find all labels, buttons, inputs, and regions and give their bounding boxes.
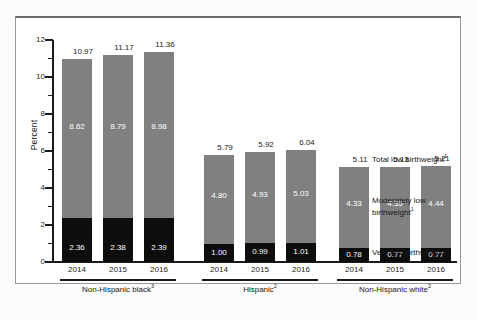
y-tick-label-12: 12 — [5, 36, 45, 44]
y-axis-title: Percent — [29, 95, 39, 175]
bar-label-very-low: 0.78 — [339, 251, 369, 259]
bar-label-moderately-low: 4.80 — [204, 192, 234, 200]
group-label-hispanic-footnote: 2 — [274, 283, 277, 289]
group-label-nhblack: Non-Hispanic black3 — [58, 283, 178, 294]
bar-label-moderately-low: 8.79 — [103, 123, 133, 131]
y-tick-major-10 — [45, 76, 53, 78]
bar-label-very-low: 2.38 — [103, 244, 133, 252]
bar-label-very-low: 2.39 — [144, 244, 174, 252]
bar-label-very-low: 2.36 — [62, 244, 92, 252]
bar-label-moderately-low: 4.33 — [339, 200, 369, 208]
bar-segment-moderately-low: 4.33 — [339, 167, 369, 248]
y-tick-minor-1 — [48, 243, 53, 245]
y-tick-major-12 — [45, 39, 53, 41]
bar-segment-very-low: 0.99 — [245, 243, 275, 262]
x-year-label-nhblack-2014: 2014 — [57, 266, 97, 274]
legend-label-moderately-line1: Moderately low — [372, 196, 426, 205]
bar-nhblack-2016[interactable]: 8.98 2.39 — [144, 52, 174, 262]
y-tick-minor-7 — [48, 132, 53, 134]
group-label-nhwhite: Non-Hispanic white2 — [335, 283, 455, 294]
x-year-label-hispanic-2015: 2015 — [240, 266, 280, 274]
bar-nhwhite-2014[interactable]: 4.33 0.78 — [339, 167, 369, 262]
x-year-label-hispanic-2016: 2016 — [281, 266, 321, 274]
legend-label-total: Total low birthweight — [372, 155, 444, 164]
x-year-label-nhwhite-2015: 2015 — [375, 266, 415, 274]
bar-segment-moderately-low: 8.98 — [144, 52, 174, 218]
bar-total-label-hispanic-2014: 5.79 — [204, 144, 246, 152]
bar-segment-moderately-low: 5.03 — [286, 150, 316, 243]
x-year-label-hispanic-2014: 2014 — [199, 266, 239, 274]
group-label-nhwhite-text: Non-Hispanic white — [359, 285, 428, 294]
bar-segment-moderately-low: 4.80 — [204, 155, 234, 244]
legend-footnote-total: 1 — [444, 153, 447, 159]
y-tick-label-0: 0 — [5, 258, 45, 266]
bar-label-moderately-low: 5.03 — [286, 190, 316, 198]
x-year-label-nhblack-2016: 2016 — [139, 266, 179, 274]
group-rule-nhwhite — [337, 279, 453, 281]
group-label-hispanic: Hispanic2 — [200, 283, 320, 294]
x-year-label-nhwhite-2016: 2016 — [416, 266, 456, 274]
bar-segment-moderately-low: 8.62 — [62, 59, 92, 218]
group-label-nhwhite-footnote: 2 — [428, 283, 431, 289]
bar-total-label-nhblack-2014: 10.97 — [62, 48, 104, 56]
y-tick-minor-5 — [48, 169, 53, 171]
y-tick-label-10: 10 — [5, 73, 45, 81]
group-rule-hispanic — [202, 279, 318, 281]
bar-label-very-low: 1.01 — [286, 248, 316, 256]
x-year-label-nhwhite-2014: 2014 — [334, 266, 374, 274]
group-rule-nhblack — [60, 279, 176, 281]
scanned-page-background: Percent 0 2 4 6 8 10 12 8.62 — [0, 0, 477, 320]
bar-total-label-hispanic-2015: 5.92 — [245, 141, 287, 149]
bar-segment-very-low: 2.38 — [103, 218, 133, 262]
bar-segment-moderately-low: 4.93 — [245, 152, 275, 243]
bar-label-very-low: 1.00 — [204, 249, 234, 257]
y-tick-minor-11 — [48, 58, 53, 60]
bar-total-label-hispanic-2016: 6.04 — [286, 139, 328, 147]
y-tick-major-4 — [45, 187, 53, 189]
y-tick-major-8 — [45, 113, 53, 115]
x-year-label-nhblack-2015: 2015 — [98, 266, 138, 274]
bar-segment-very-low: 2.36 — [62, 218, 92, 262]
bar-hispanic-2015[interactable]: 4.93 0.99 — [245, 152, 275, 262]
y-tick-major-6 — [45, 150, 53, 152]
y-tick-label-4: 4 — [5, 184, 45, 192]
bar-hispanic-2016[interactable]: 5.03 1.01 — [286, 150, 316, 262]
group-label-nhblack-text: Non-Hispanic black — [82, 285, 151, 294]
chart-plot-area: Percent 0 2 4 6 8 10 12 8.62 — [0, 0, 477, 320]
bar-nhblack-2014[interactable]: 8.62 2.36 — [62, 59, 92, 262]
bar-total-label-nhblack-2015: 11.17 — [103, 44, 145, 52]
group-label-nhblack-footnote: 3 — [151, 283, 154, 289]
bar-label-very-low: 0.99 — [245, 248, 275, 256]
bar-segment-very-low: 0.78 — [339, 248, 369, 262]
bar-label-moderately-low: 8.98 — [144, 123, 174, 131]
bar-total-label-nhblack-2016: 11.36 — [144, 41, 186, 49]
bar-label-moderately-low: 8.62 — [62, 123, 92, 131]
y-tick-major-2 — [45, 224, 53, 226]
y-tick-minor-9 — [48, 95, 53, 97]
y-tick-label-2: 2 — [5, 221, 45, 229]
legend-item-total-low-birthweight: Total low birthweight1 — [372, 153, 472, 165]
y-tick-label-8: 8 — [5, 110, 45, 118]
bar-hispanic-2014[interactable]: 4.80 1.00 — [204, 155, 234, 262]
group-label-hispanic-text: Hispanic — [243, 285, 274, 294]
y-tick-minor-3 — [48, 206, 53, 208]
y-tick-label-6: 6 — [5, 147, 45, 155]
bar-segment-very-low: 1.00 — [204, 244, 234, 262]
legend-footnote-moderately: 1 — [411, 206, 414, 212]
legend-item-moderately-low-birthweight: Moderately low birthweight1 — [372, 196, 472, 218]
legend-item-very-low-birthweight: Very low birthweight — [372, 248, 472, 258]
bar-segment-moderately-low: 8.79 — [103, 55, 133, 218]
bar-segment-very-low: 2.39 — [144, 218, 174, 262]
legend-label-moderately-line2: birthweight — [372, 208, 411, 217]
bar-label-moderately-low: 4.93 — [245, 191, 275, 199]
legend-label-very-low: Very low birthweight — [372, 248, 443, 257]
bar-segment-very-low: 1.01 — [286, 243, 316, 262]
bar-nhblack-2015[interactable]: 8.79 2.38 — [103, 55, 133, 262]
